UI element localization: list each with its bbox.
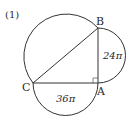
side-cb <box>33 28 98 83</box>
area-label-ab: 24π <box>102 50 123 61</box>
point-label-a: A <box>96 85 106 98</box>
right-angle-marker <box>93 78 98 83</box>
geometry-figure: (1) B C A 24π 36π <box>0 0 135 124</box>
hypotenuse-semicircle <box>24 14 98 83</box>
area-label-ca: 36π <box>56 93 76 104</box>
point-label-c: C <box>22 81 30 94</box>
point-label-b: B <box>96 15 104 28</box>
problem-number: (1) <box>5 9 19 20</box>
